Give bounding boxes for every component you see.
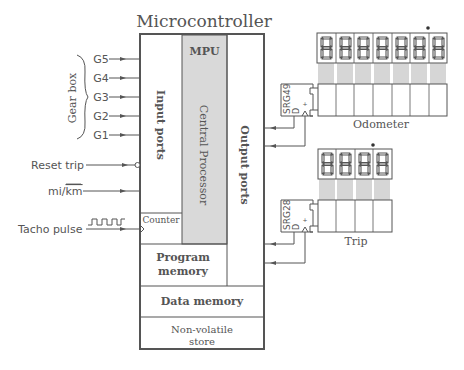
odometer-display xyxy=(317,26,447,63)
trip-label: Trip xyxy=(344,235,367,248)
pulse-train-icon xyxy=(88,219,125,225)
program-memory-label-1: Program xyxy=(156,251,210,264)
counter-label: Counter xyxy=(142,215,180,225)
odometer-label: Odometer xyxy=(353,118,410,131)
odometer-register-d: D xyxy=(292,108,301,114)
gear-box-label: Gear box xyxy=(66,72,79,123)
nonvolatile-label-2: store xyxy=(189,336,215,347)
mi-km-label: mi/km xyxy=(48,185,83,198)
gear-label-g1: G1 xyxy=(93,129,109,142)
tacho-pulse-label: Tacho pulse xyxy=(17,223,83,236)
central-processor-label: Central Processor xyxy=(197,105,210,206)
program-memory-label-2: memory xyxy=(158,265,208,278)
odometer-wires xyxy=(319,63,445,84)
trip-register: SRG28 D + xyxy=(281,199,392,232)
trip-decimal-point xyxy=(371,143,375,147)
gear-inputs: G5 G4 G3 G2 G1 xyxy=(93,53,140,142)
odometer-register: SRG49 D + xyxy=(281,83,447,116)
gear-label-g5: G5 xyxy=(93,53,109,66)
reset-trip-inverter-bubble xyxy=(135,163,140,168)
trip-register-name: SRG28 xyxy=(282,199,292,230)
svg-text:+: + xyxy=(302,216,307,223)
output-ports-label: Output ports xyxy=(238,125,251,204)
odometer-register-name: SRG49 xyxy=(282,83,292,114)
diagram-title: Microcontroller xyxy=(136,11,273,31)
gear-label-g4: G4 xyxy=(93,72,109,85)
reset-trip-label: Reset trip xyxy=(31,159,84,172)
gear-label-g2: G2 xyxy=(93,110,109,123)
km-overbar-text: km xyxy=(65,185,82,198)
mpu-label: MPU xyxy=(189,45,219,58)
data-memory-label: Data memory xyxy=(161,295,244,308)
input-ports-label: Input ports xyxy=(154,90,167,160)
trip-display xyxy=(318,143,392,179)
nonvolatile-label-1: Non-volatile xyxy=(171,324,233,335)
gear-label-g3: G3 xyxy=(93,91,109,104)
microcontroller-diagram: Microcontroller MPU Input ports Central … xyxy=(0,0,464,370)
trip-wires xyxy=(320,179,389,200)
trip-register-d: D xyxy=(292,224,301,230)
odometer-decimal-point xyxy=(426,26,430,30)
svg-text:+: + xyxy=(302,100,307,107)
